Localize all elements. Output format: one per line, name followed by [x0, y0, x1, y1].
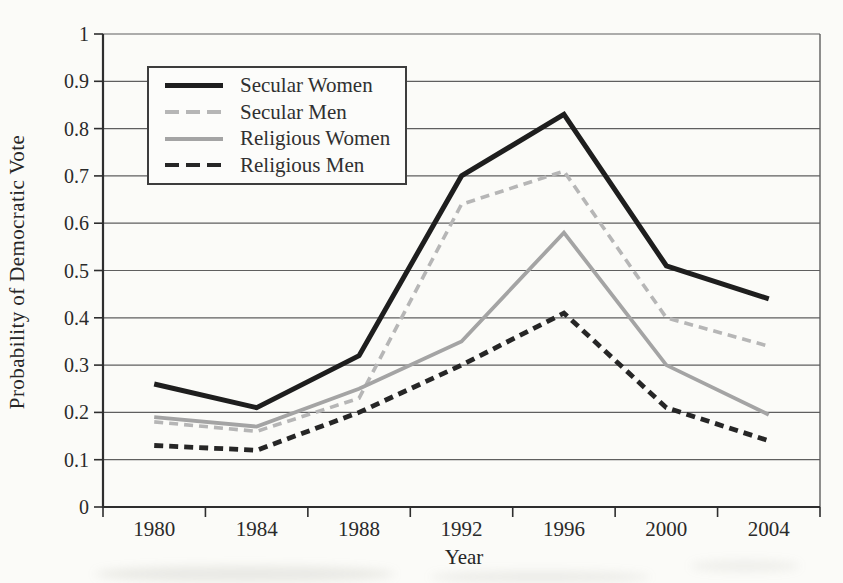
legend-item-secular-women: Secular Women — [165, 73, 405, 98]
y-tick-label: 0 — [79, 496, 89, 518]
x-tick-label: 1996 — [543, 517, 585, 541]
y-tick-label: 0.4 — [64, 307, 89, 329]
legend-label: Secular Men — [240, 102, 347, 123]
legend-label: Religious Men — [240, 155, 364, 176]
y-tick-label: 0.5 — [64, 260, 89, 282]
x-tick-label: 1988 — [338, 517, 380, 541]
legend-line-sample-secular-women — [165, 83, 223, 88]
y-tick-label: 1 — [79, 23, 89, 45]
y-tick-label: 0.7 — [64, 165, 89, 187]
x-axis-title: Year — [445, 545, 484, 570]
legend-line-sample-religious-men — [165, 163, 223, 168]
series-line-secular-men — [154, 171, 769, 431]
series-line-religious-women — [154, 233, 769, 427]
y-tick-label: 0.9 — [64, 70, 89, 92]
legend-label: Religious Women — [240, 128, 390, 149]
legend-item-religious-women: Religious Women — [165, 126, 405, 151]
legend: Secular Women Secular Men Religious Wome… — [147, 66, 407, 185]
scanned-line-chart-figure: 00.10.20.30.40.50.60.70.80.9119801984198… — [0, 0, 843, 583]
y-tick-label: 0.8 — [64, 118, 89, 140]
x-tick-label: 1992 — [441, 517, 483, 541]
y-tick-label: 0.3 — [64, 354, 89, 376]
legend-item-secular-men: Secular Men — [165, 100, 405, 125]
y-axis-title: Probability of Democratic Vote — [5, 135, 30, 409]
legend-item-religious-men: Religious Men — [165, 153, 405, 178]
chart-canvas: 00.10.20.30.40.50.60.70.80.9119801984198… — [0, 0, 843, 583]
x-tick-label: 1980 — [133, 517, 175, 541]
y-tick-label: 0.6 — [64, 212, 89, 234]
y-tick-label: 0.1 — [64, 449, 89, 471]
y-tick-label: 0.2 — [64, 401, 89, 423]
x-tick-label: 1984 — [236, 517, 279, 541]
x-tick-label: 2004 — [748, 517, 791, 541]
x-tick-label: 2000 — [645, 517, 687, 541]
legend-line-sample-religious-women — [165, 137, 223, 141]
legend-label: Secular Women — [240, 75, 373, 96]
legend-line-sample-secular-men — [165, 110, 223, 114]
